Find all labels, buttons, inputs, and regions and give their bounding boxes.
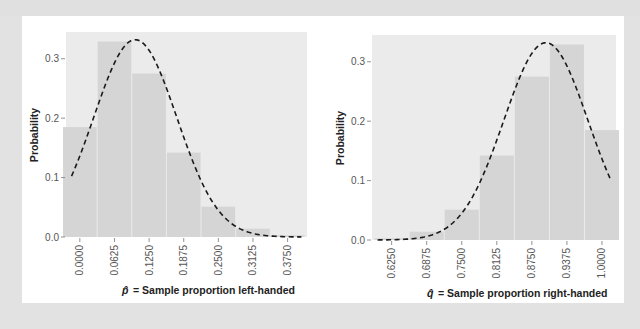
y-axis-title: Probability <box>334 111 346 165</box>
y-tick-label: 0.2 <box>351 116 365 127</box>
y-tick-label: 0.3 <box>45 53 59 64</box>
y-tick-label: 0.1 <box>351 175 365 186</box>
y-tick-label: 0.0 <box>45 232 59 243</box>
x-tick-label: 0.7500 <box>456 248 467 279</box>
x-tick-label: 0.2500 <box>213 245 224 276</box>
x-tick-label: 0.8750 <box>526 248 537 279</box>
bar-0.2500 <box>202 207 236 237</box>
x-axis-label: = Sample proportion right-handed <box>438 287 607 299</box>
x-tick-label: 0.0000 <box>74 245 85 276</box>
x-axis-title: p̂ = Sample proportion left-handed <box>121 284 295 296</box>
bar-0.9375 <box>550 45 584 240</box>
x-tick-label: 0.9375 <box>561 248 572 279</box>
x-tick-label: 0.8125 <box>491 248 502 279</box>
x-axis-symbol: q̂ <box>427 287 434 299</box>
x-axis-title: q̂ = Sample proportion right-handed <box>427 287 607 299</box>
bar-0.8750 <box>515 77 549 240</box>
y-tick-label: 0.2 <box>45 113 59 124</box>
bar-0.1250 <box>132 74 166 237</box>
x-tick-label: 1.0000 <box>596 248 607 279</box>
figure-svg: 0.00.10.20.30.00000.06250.12500.18750.25… <box>0 0 640 329</box>
bar-0.8125 <box>480 156 514 240</box>
bar-0.1875 <box>167 153 201 237</box>
x-tick-label: 0.6250 <box>386 248 397 279</box>
x-tick-label: 0.1250 <box>144 245 155 276</box>
bar-0.7500 <box>445 210 479 240</box>
y-axis-title: Probability <box>28 108 40 162</box>
bar-1.0000 <box>585 130 619 240</box>
bar-0.0625 <box>98 42 132 237</box>
x-axis-symbol: p̂ <box>121 284 129 296</box>
x-axis-label: = Sample proportion left-handed <box>133 284 295 296</box>
y-tick-label: 0.3 <box>351 56 365 67</box>
right-handed-chart: 0.00.10.20.30.62500.68750.75000.81250.87… <box>334 35 619 299</box>
x-tick-label: 0.1875 <box>178 245 189 276</box>
y-tick-label: 0.1 <box>45 172 59 183</box>
bar-0.0000 <box>63 127 97 237</box>
x-tick-label: 0.6875 <box>421 248 432 279</box>
x-tick-label: 0.3125 <box>247 245 258 276</box>
x-tick-label: 0.0625 <box>109 245 120 276</box>
left-handed-chart: 0.00.10.20.30.00000.06250.12500.18750.25… <box>28 32 307 296</box>
y-tick-label: 0.0 <box>351 235 365 246</box>
x-tick-label: 0.3750 <box>282 245 293 276</box>
